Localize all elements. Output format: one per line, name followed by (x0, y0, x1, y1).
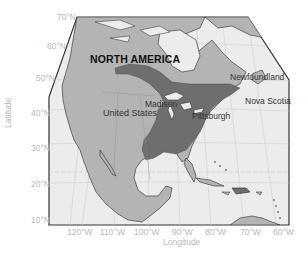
lat-tick-50: 50°N (36, 74, 55, 83)
label-newfoundland: Newfoundland (230, 73, 284, 82)
lon-tick-90: 90°W (172, 228, 193, 237)
lon-tick-70: 70°W (240, 228, 261, 237)
lat-tick-20: 20°N (31, 180, 50, 189)
map-title: NORTH AMERICA (90, 54, 180, 65)
label-madison: Madison (145, 100, 177, 109)
lat-tick-30: 30°N (31, 144, 50, 153)
label-nova-scotia: Nova Scotia (245, 97, 291, 106)
y-axis-title: Latitude (4, 98, 13, 128)
x-axis-title: Longitude (163, 238, 200, 247)
lat-tick-40: 40°N (31, 109, 50, 118)
lon-tick-110: 110°W (100, 228, 125, 237)
label-united-states: United States (103, 109, 157, 118)
lon-tick-120: 120°W (67, 228, 93, 237)
lat-tick-70: 70°N (57, 13, 76, 22)
lat-tick-10: 10°N (31, 216, 50, 225)
lon-tick-80: 80°W (205, 228, 226, 237)
lat-tick-60: 60°N (47, 42, 66, 51)
lon-tick-100: 100°W (134, 228, 160, 237)
lon-tick-60: 60°W (273, 228, 294, 237)
label-pittsburgh: Pittsburgh (192, 112, 230, 121)
